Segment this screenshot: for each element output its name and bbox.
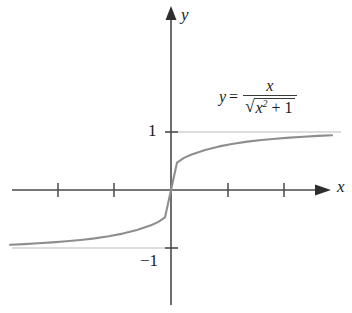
equation-fraction: x √ x2 + 1 <box>243 78 296 116</box>
equation-equals-sign: = <box>229 89 238 105</box>
radicand: x2 + 1 <box>254 98 294 116</box>
arrow-up-icon <box>166 6 177 20</box>
fraction-denominator: √ x2 + 1 <box>243 96 296 116</box>
y-tick-label-negative-one: −1 <box>140 252 158 269</box>
radical-sign-icon: √ <box>245 98 254 116</box>
radicand-rest: + 1 <box>272 99 293 116</box>
y-tick-label-one: 1 <box>148 122 157 139</box>
equation-lhs: y <box>219 89 226 105</box>
equation-annotation: y = x √ x2 + 1 <box>219 78 297 116</box>
x-axis-label: x <box>337 178 345 195</box>
graph-canvas <box>0 0 352 313</box>
fraction-numerator: x <box>260 78 279 95</box>
radicand-exponent: 2 <box>263 98 268 109</box>
square-root-expression: √ x2 + 1 <box>245 98 294 116</box>
arrow-right-icon <box>315 185 331 196</box>
y-axis-label: y <box>181 6 189 23</box>
function-graph-figure: y x 1 −1 y = x √ x2 + 1 <box>0 0 352 313</box>
radicand-variable: x <box>255 99 262 116</box>
